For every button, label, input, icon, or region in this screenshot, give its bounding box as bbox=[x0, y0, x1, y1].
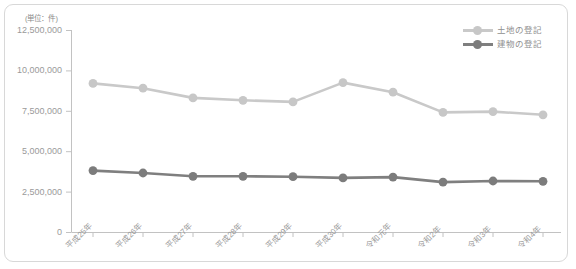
series-line-tochi bbox=[93, 83, 543, 115]
legend-item-tatemono: 建物の登記 bbox=[463, 38, 542, 50]
legend-marker-tatemono bbox=[463, 39, 493, 49]
y-tick-label-5: 12,500,000 bbox=[0, 25, 62, 35]
legend-label-tochi: 土地の登記 bbox=[497, 25, 542, 35]
series-line-tatemono bbox=[93, 171, 543, 183]
legend-label-tatemono: 建物の登記 bbox=[497, 39, 542, 49]
legend-item-tochi: 土地の登記 bbox=[463, 24, 542, 36]
chart-legend: 土地の登記 建物の登記 bbox=[463, 24, 542, 52]
y-tick-label-1: 2,500,000 bbox=[0, 187, 62, 197]
y-tick-marks bbox=[66, 31, 72, 233]
y-tick-label-4: 10,000,000 bbox=[0, 65, 62, 75]
y-tick-label-0: 0 bbox=[0, 227, 62, 237]
y-tick-label-2: 5,000,000 bbox=[0, 146, 62, 156]
legend-marker-tochi bbox=[463, 25, 493, 35]
y-tick-label-3: 7,500,000 bbox=[0, 106, 62, 116]
